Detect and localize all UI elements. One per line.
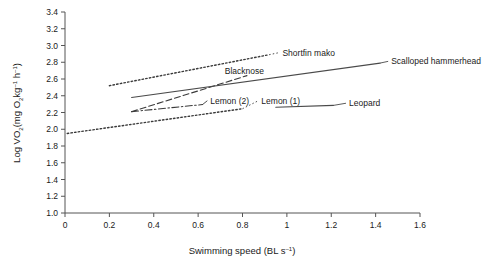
x-tick-label: 0.2 xyxy=(103,220,115,230)
y-tick-label: 2.4 xyxy=(46,91,58,101)
y-tick-label: 3.2 xyxy=(46,24,58,34)
y-tick-label: 2.8 xyxy=(46,57,58,67)
vo2-vs-swimming-speed-chart: 1.01.21.41.61.82.02.22.42.62.83.03.23.4 … xyxy=(0,0,484,267)
x-tick-label: 0.8 xyxy=(237,220,249,230)
y-tick-label: 2.0 xyxy=(46,124,58,134)
series-label-leopard: Leopard xyxy=(349,98,380,108)
y-tick-label: 1.4 xyxy=(46,175,58,185)
y-tick-label: 1.2 xyxy=(46,191,58,201)
x-tick-label: 1 xyxy=(285,220,290,230)
x-tick-label: 1.6 xyxy=(414,220,426,230)
x-tick-label: 1.4 xyxy=(370,220,382,230)
series-label-shortfin-mako: Shortfin mako xyxy=(282,48,335,58)
y-tick-label: 1.8 xyxy=(46,141,58,151)
x-tick-label: 0.6 xyxy=(192,220,204,230)
series-label-lemon-2: Lemon (2) xyxy=(210,96,249,106)
x-tick-label: 0 xyxy=(63,220,68,230)
y-tick-label: 1.0 xyxy=(46,208,58,218)
chart-container: 1.01.21.41.61.82.02.22.42.62.83.03.23.4 … xyxy=(0,0,484,267)
y-tick-label: 3.0 xyxy=(46,41,58,51)
series-label-scalloped-hammerhead: Scalloped hammerhead xyxy=(391,56,481,66)
series-label-blacknose: Blacknose xyxy=(225,66,264,76)
x-axis-title: Swimming speed (BL s–1) xyxy=(189,245,296,256)
y-tick-label: 2.2 xyxy=(46,108,58,118)
y-tick-label: 2.6 xyxy=(46,74,58,84)
x-tick-label: 1.2 xyxy=(325,220,337,230)
y-tick-label: 1.6 xyxy=(46,158,58,168)
series-label-lemon-1: Lemon (1) xyxy=(261,96,300,106)
y-tick-label: 3.4 xyxy=(46,7,58,17)
y-axis-title: Log VO2(mg O2kg–1 h–1) xyxy=(11,63,24,163)
x-tick-label: 0.4 xyxy=(148,220,160,230)
